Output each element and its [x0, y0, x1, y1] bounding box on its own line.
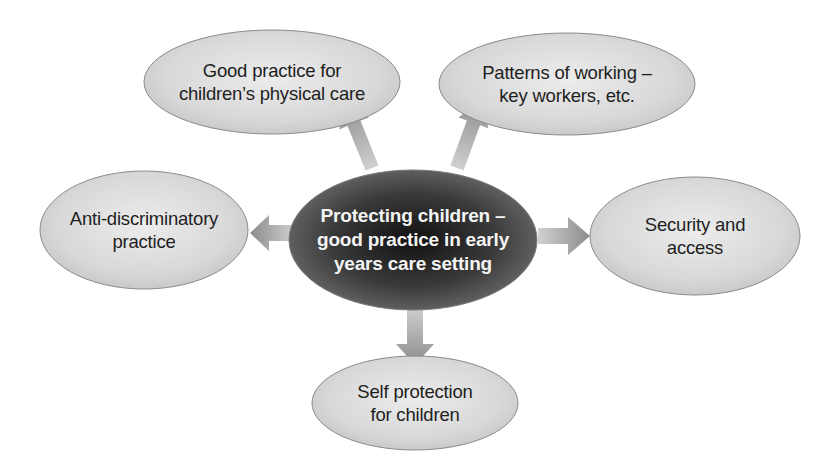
center-node-line-1: Protecting children – [321, 204, 506, 228]
node-patterns-line-1: Patterns of working – [482, 61, 652, 84]
node-physical-care-line-1: Good practice for [203, 59, 342, 82]
spider-diagram: Good practice for children’s physical ca… [0, 0, 833, 459]
center-node-line-2: good practice in early [317, 228, 509, 252]
node-self-protection-line-2: for children [370, 403, 459, 426]
node-anti-discriminatory-line-1: Anti-discriminatory [70, 207, 218, 230]
node-security-access: Security and access [590, 177, 800, 295]
node-patterns-of-working: Patterns of working – key workers, etc. [439, 33, 695, 135]
center-node-line-3: years care setting [334, 252, 492, 276]
node-anti-discriminatory-line-2: practice [112, 230, 175, 253]
node-physical-care: Good practice for children’s physical ca… [144, 30, 400, 134]
center-node: Protecting children – good practice in e… [289, 170, 537, 310]
arrow-to-security-access [538, 217, 590, 255]
node-patterns-line-2: key workers, etc. [499, 84, 634, 107]
node-security-line-1: Security and [645, 213, 745, 236]
node-self-protection: Self protection for children [312, 356, 518, 450]
node-self-protection-line-1: Self protection [357, 380, 472, 403]
node-security-line-2: access [667, 236, 723, 259]
node-anti-discriminatory: Anti-discriminatory practice [40, 171, 248, 289]
node-physical-care-line-2: children’s physical care [179, 82, 365, 105]
